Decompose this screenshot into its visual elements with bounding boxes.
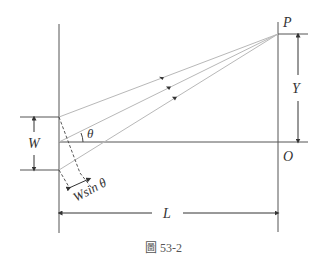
figure-caption: 圖 53-2 <box>145 241 182 255</box>
label-w: W <box>28 136 41 151</box>
label-theta: θ <box>87 126 94 141</box>
ray-top <box>59 34 278 117</box>
dashed-perpendicular-top <box>59 117 80 173</box>
diffraction-diagram: P O Y W L θ Wsin θ 圖 53-2 <box>0 0 326 266</box>
label-o: O <box>283 149 293 164</box>
dashed-perpendicular-bottom <box>59 170 69 187</box>
ray-bottom-arrow-icon <box>172 97 177 101</box>
label-p: P <box>282 15 292 30</box>
theta-arc <box>81 133 83 142</box>
label-wsin-theta: Wsin θ <box>70 174 109 204</box>
label-y: Y <box>292 81 302 96</box>
label-l: L <box>162 206 171 221</box>
ray-bottom <box>59 34 278 170</box>
